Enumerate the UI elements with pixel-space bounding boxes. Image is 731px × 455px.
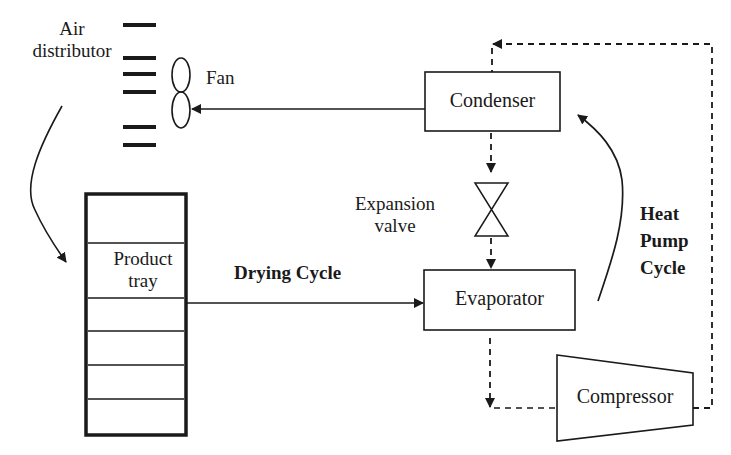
- heat-pump-dryer-diagram: Air distributor Fan Condenser Expansion …: [0, 0, 731, 455]
- air-distributor-label-line2: distributor: [22, 40, 122, 62]
- expansion-valve-label-line2: valve: [340, 215, 450, 237]
- air-distributor-icon: [123, 25, 156, 145]
- heat-pump-cycle-arrow: [578, 115, 623, 301]
- heat-pump-label-line1: Heat: [640, 200, 689, 227]
- product-tray-icon: [86, 194, 186, 435]
- condenser-label: Condenser: [425, 89, 560, 112]
- air-distributor-label: Air distributor: [22, 18, 122, 62]
- heat-pump-label-line2: Pump: [640, 227, 689, 254]
- product-tray-label-line1: Product: [100, 248, 186, 270]
- heat-pump-cycle-label: Heat Pump Cycle: [640, 200, 689, 281]
- expansion-valve-label-line1: Expansion: [340, 193, 450, 215]
- compressor-label: Compressor: [562, 385, 688, 408]
- product-tray-label-line2: tray: [100, 270, 186, 292]
- fan-label: Fan: [206, 67, 235, 89]
- fan-icon: [172, 58, 190, 128]
- product-tray-label: Product tray: [100, 248, 186, 292]
- drying-cycle-label: Drying Cycle: [234, 262, 341, 284]
- expansion-valve-label: Expansion valve: [340, 193, 450, 237]
- heat-pump-label-line3: Cycle: [640, 254, 689, 281]
- evaporator-label: Evaporator: [424, 287, 575, 310]
- air-distributor-label-line1: Air: [22, 18, 122, 40]
- air-to-tray-arrow: [31, 106, 66, 262]
- expansion-valve-icon: [475, 183, 508, 236]
